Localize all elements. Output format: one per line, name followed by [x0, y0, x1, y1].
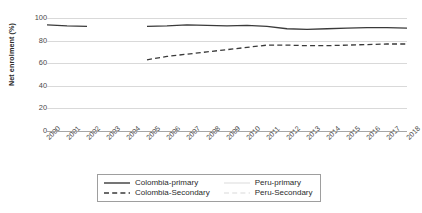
- gridline: [47, 41, 407, 42]
- legend-item[interactable]: Colombia-Secondary: [104, 189, 210, 197]
- legend-swatch-icon: [104, 189, 130, 197]
- gridline: [47, 108, 407, 109]
- y-tick-label: 0: [17, 127, 47, 134]
- x-axis-line: [47, 131, 407, 132]
- gridline: [47, 86, 407, 87]
- x-tick-label: 2018: [405, 125, 421, 141]
- legend-swatch-icon: [224, 189, 250, 197]
- series-line: [47, 25, 87, 27]
- y-axis-title: Net enrolment (%): [7, 0, 16, 110]
- gridline: [47, 63, 407, 64]
- chart-legend: Colombia-primaryPeru-primaryColombia-Sec…: [97, 174, 321, 202]
- legend-swatch-icon: [224, 179, 250, 187]
- y-tick-label: 20: [17, 104, 47, 111]
- legend-label: Colombia-Secondary: [135, 189, 210, 197]
- y-tick-label: 40: [17, 82, 47, 89]
- legend-item[interactable]: Peru-primary: [224, 179, 313, 187]
- series-line: [147, 25, 407, 30]
- legend-label: Colombia-primary: [135, 179, 198, 187]
- legend-label: Peru-Secondary: [255, 189, 313, 197]
- x-axis-tick-labels: 2000200120022003200420052006200720082009…: [47, 134, 407, 174]
- y-tick-label: 100: [17, 14, 47, 21]
- plot-svg: [47, 18, 407, 131]
- gridline: [47, 18, 407, 19]
- series-line: [147, 44, 407, 60]
- y-axis-tick-labels: 020406080100: [17, 0, 47, 213]
- plot-area: [47, 18, 407, 131]
- y-tick-label: 60: [17, 59, 47, 66]
- legend-label: Peru-primary: [255, 179, 301, 187]
- legend-item[interactable]: Peru-Secondary: [224, 189, 313, 197]
- y-tick-label: 80: [17, 37, 47, 44]
- legend-item[interactable]: Colombia-primary: [104, 179, 210, 187]
- legend-swatch-icon: [104, 179, 130, 187]
